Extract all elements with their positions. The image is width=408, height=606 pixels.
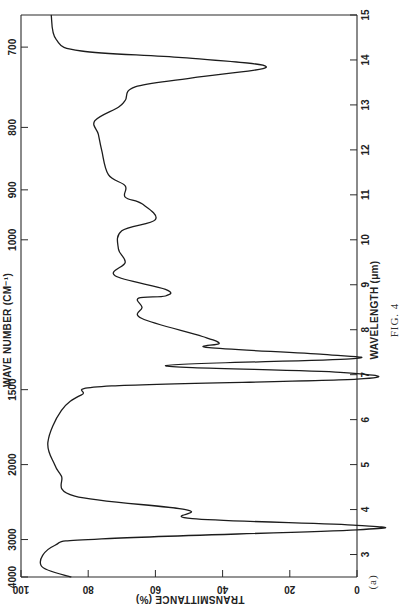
wavenumber-tick-label: 2000: [7, 453, 18, 476]
wavelength-tick-label: 15: [360, 9, 371, 21]
wavenumber-tick-label: 800: [7, 119, 18, 136]
ir-spectrum-chart: 3456789101112131415 40003000200015001000…: [0, 0, 408, 606]
wavelength-tick-label: 13: [360, 99, 371, 111]
transmittance-ticks: 100806040200: [12, 570, 360, 595]
plot-frame: [21, 15, 357, 577]
wavenumber-axis-title: WAVE NUMBER (CM⁻¹): [2, 273, 13, 387]
transmittance-tick-label: 0: [354, 584, 360, 595]
transmittance-tick-label: 40: [217, 584, 229, 595]
figure-caption: FIG. 4: [388, 303, 400, 338]
wavenumber-tick-label: 3000: [7, 528, 18, 551]
wavelength-tick-label: 4: [360, 506, 371, 512]
transmittance-axis-title: TRANSMITTANCE (%): [136, 594, 245, 605]
wavelength-ticks: 3456789101112131415: [350, 9, 371, 557]
wavelength-tick-label: 12: [360, 144, 371, 156]
panel-label: (a): [366, 574, 379, 589]
wavelength-tick-label: 3: [360, 551, 371, 557]
spectrum-curve: [40, 15, 385, 577]
wavenumber-tick-label: 900: [7, 181, 18, 198]
wavelength-tick-label: 10: [360, 234, 371, 246]
wavenumber-tick-label: 700: [7, 38, 18, 55]
wavelength-axis-title: WAVELENGTH (μm): [369, 261, 380, 360]
wavelength-tick-label: 14: [360, 54, 371, 66]
wavelength-tick-label: 6: [360, 416, 371, 422]
wavenumber-tick-label: 1000: [7, 228, 18, 251]
transmittance-tick-label: 100: [12, 584, 29, 595]
wavelength-tick-label: 5: [360, 461, 371, 467]
transmittance-tick-label: 80: [82, 584, 94, 595]
transmittance-tick-label: 60: [149, 584, 161, 595]
transmittance-tick-label: 20: [284, 584, 296, 595]
wavelength-tick-label: 11: [360, 189, 371, 200]
